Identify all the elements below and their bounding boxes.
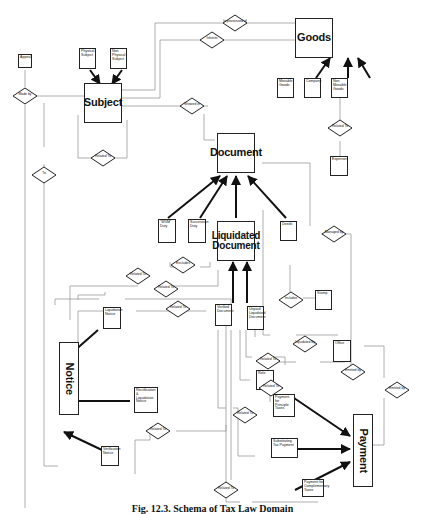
entity-goods: Goods bbox=[295, 18, 333, 58]
entity-label: Appeal bbox=[20, 56, 31, 60]
entity-rectification-liquidation-notice: Rectification & Liquidation Notice bbox=[134, 387, 158, 413]
entity-label: Stamp bbox=[317, 292, 327, 296]
entity-label: Expenses bbox=[332, 158, 348, 162]
entity-label: Rectification & Liquidation Notice bbox=[136, 389, 156, 404]
entity-verification-notice: Verification Notice bbox=[101, 446, 119, 466]
entity-office: Office bbox=[333, 340, 351, 362]
rel-label: Excludes bbox=[170, 262, 196, 266]
entity-label: Substituting Tax Payment bbox=[273, 440, 296, 448]
entity-document: Document bbox=[217, 133, 255, 173]
rel-label: Related To bbox=[213, 487, 239, 491]
entity-label: Liquidation Notice bbox=[105, 309, 122, 317]
rel-label: Liquidated By bbox=[292, 341, 318, 345]
entity-label: Role bbox=[258, 372, 265, 376]
entity-label: Movable Goods bbox=[279, 80, 293, 88]
rel-label: Showed in bbox=[179, 103, 205, 107]
entity-verified-document: Verified Document bbox=[215, 304, 232, 326]
entity-physical-subject: Physical Subject bbox=[79, 48, 96, 69]
entity-label: Verified Document bbox=[217, 306, 233, 314]
entity-label: Payment for Complementary Taxes bbox=[304, 481, 329, 492]
rel-label: Related To bbox=[145, 428, 171, 432]
entity-label: Subject bbox=[84, 97, 122, 109]
rel-label: Inherits bbox=[199, 37, 225, 41]
entity-ww-duty: "WVM" Duty bbox=[158, 219, 176, 243]
entity-label: Goods bbox=[297, 32, 331, 44]
entity-company: Company bbox=[304, 78, 321, 98]
entity-label: Deeds bbox=[282, 223, 292, 227]
entity-non-physical-subject: Non Physical Subject bbox=[110, 48, 127, 69]
entity-label: Unpaid Liquidated Document bbox=[249, 308, 266, 319]
rel-label: Related To bbox=[258, 385, 284, 389]
entity-label: "WVM" Duty bbox=[160, 221, 174, 229]
rel-label: Related To bbox=[125, 273, 151, 277]
entity-label: Office bbox=[335, 342, 344, 346]
rel-label: Made by bbox=[12, 93, 38, 97]
entity-subject: Subject bbox=[84, 83, 122, 123]
rel-label: Related To bbox=[232, 412, 258, 416]
entity-payment: Payment bbox=[353, 414, 373, 487]
entity-label: Succession Duty bbox=[190, 221, 208, 229]
figure-caption: Fig. 12.3. Schema of Tax Law Domain bbox=[0, 503, 425, 514]
entity-succession-duty: Succession Duty bbox=[188, 219, 206, 243]
entity-payment-principle-taxes: Payment for Principle Taxes bbox=[273, 394, 295, 417]
entity-label: Non Physical Subject bbox=[112, 50, 125, 61]
entity-notice: Notice bbox=[59, 342, 79, 415]
rel-label: Related To bbox=[255, 358, 281, 362]
entity-liquidation-notice: Liquidation Notice bbox=[103, 307, 121, 329]
entity-label: Payment bbox=[357, 428, 369, 472]
rel-label: Related To bbox=[327, 125, 353, 129]
entity-liquidated-document: Liquidated Document bbox=[217, 221, 255, 261]
rel-label: Managed by bbox=[321, 231, 347, 235]
entity-expenses: Expenses bbox=[330, 156, 348, 176]
rel-label: Is possessed of bbox=[222, 20, 248, 24]
rel-label: To bbox=[31, 172, 57, 176]
entity-label: Document bbox=[210, 147, 262, 159]
rel-label: Related To bbox=[153, 286, 179, 290]
entity-label: Physical Subject bbox=[81, 50, 94, 58]
entity-label: Notice bbox=[63, 362, 75, 394]
entity-label: Non Movable Goods bbox=[333, 80, 347, 91]
rel-label: Related To bbox=[165, 306, 191, 310]
entity-appeal: Appeal bbox=[18, 54, 32, 68]
rel-label: Includes bbox=[278, 297, 304, 301]
entity-substituting-tax-payment: Substituting Tax Payment bbox=[271, 438, 298, 458]
entity-label: Company bbox=[306, 80, 321, 84]
rel-label: Emitted by bbox=[384, 387, 410, 391]
entity-label: Liquidated Document bbox=[212, 231, 261, 252]
entity-stamp: Stamp bbox=[315, 290, 332, 310]
rel-label: Emitted by bbox=[340, 369, 366, 373]
entity-unpaid-liquidated-document: Unpaid Liquidated Document bbox=[247, 306, 264, 330]
entity-label: Verification Notice bbox=[103, 448, 121, 456]
entity-deeds: Deeds bbox=[280, 221, 297, 241]
rel-label: Related To bbox=[90, 155, 116, 159]
entity-payment-complementary-taxes: Payment for Complementary Taxes bbox=[302, 479, 324, 497]
entity-movable-goods: Movable Goods bbox=[277, 78, 294, 98]
entity-non-movable-goods: Non Movable Goods bbox=[331, 78, 348, 98]
entity-label: Payment for Principle Taxes bbox=[275, 396, 293, 411]
